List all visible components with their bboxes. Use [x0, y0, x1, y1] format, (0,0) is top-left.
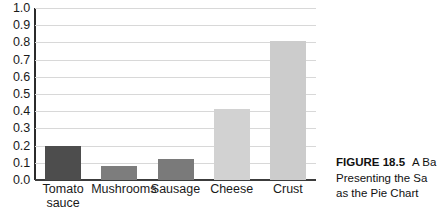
bar-chart: 1.00.90.80.70.60.50.40.30.20.10.0 Tomato… [0, 0, 318, 213]
figure-caption-line2: Presenting the Sa [336, 172, 427, 184]
x-axis-label-2: Sausage [147, 182, 203, 196]
y-axis-tick-0-6: 0.6 [13, 70, 30, 84]
y-axis-tick-0-3: 0.3 [13, 121, 30, 135]
y-axis-tick-0-2: 0.2 [13, 139, 30, 153]
y-axis-tick-labels: 1.00.90.80.70.60.50.40.30.20.10.0 [0, 0, 33, 180]
figure-caption-line3: as the Pie Chart [336, 187, 418, 199]
plot-area [35, 8, 316, 180]
x-axis-label-0: Tomato sauce [35, 182, 91, 210]
x-axis-label-3: Cheese [204, 182, 260, 196]
bar-1 [101, 166, 137, 180]
x-axis-category-labels: Tomato sauceMushroomsSausageCheeseCrust [35, 182, 316, 213]
y-axis-tick-0-8: 0.8 [13, 35, 30, 49]
y-axis-tick-0-7: 0.7 [13, 53, 30, 67]
bar-4 [270, 41, 306, 180]
x-axis-label-1: Mushrooms [91, 182, 147, 196]
bar-2 [158, 159, 194, 180]
y-axis-tick-0-4: 0.4 [13, 104, 30, 118]
bar-series [35, 8, 316, 180]
bar-0 [45, 146, 81, 180]
figure-caption-line1: A Ba [412, 156, 436, 168]
y-axis-tick-0-9: 0.9 [13, 18, 30, 32]
figure-caption: FIGURE 18.5A Ba Presenting the Sa as the… [336, 155, 441, 202]
y-axis-tick-0-0: 0.0 [13, 173, 30, 187]
x-axis-label-4: Crust [260, 182, 316, 196]
y-axis-tick-1-0: 1.0 [13, 1, 30, 15]
y-axis-tick-0-5: 0.5 [13, 87, 30, 101]
bar-3 [214, 109, 250, 180]
y-axis-tick-0-1: 0.1 [13, 156, 30, 170]
figure-caption-label: FIGURE 18.5 [336, 156, 405, 168]
